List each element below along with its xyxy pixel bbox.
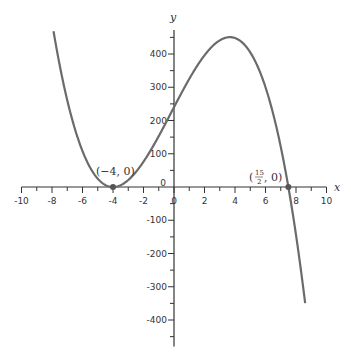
y-tick-label: -300 (147, 282, 168, 292)
x-tick-label: 2 (202, 196, 208, 206)
x-tick-label: 0 (171, 196, 177, 206)
x-tick-label: 10 (321, 196, 333, 206)
x-tick-label: 4 (232, 196, 238, 206)
y-tick-label: 400 (150, 49, 167, 59)
y-tick-label: 100 (150, 149, 167, 159)
function-plot: -10-8-6-4-22468100-400-300-200-100100200… (0, 0, 351, 362)
x-tick-label: 6 (263, 196, 269, 206)
x-axis-label: x (334, 181, 341, 194)
y-tick-label: -400 (147, 315, 168, 325)
annotation-right-root: ( 15 2 , 0) (249, 169, 282, 186)
svg-text:15: 15 (255, 169, 264, 177)
x-tick-label: -10 (14, 196, 29, 206)
svg-text:(: ( (249, 171, 253, 184)
x-tick-label: -4 (109, 196, 118, 206)
x-tick-label: 8 (293, 196, 299, 206)
intercept-marker (285, 184, 291, 190)
y-tick-label: 300 (150, 82, 167, 92)
x-tick-label: -8 (48, 196, 57, 206)
svg-text:2: 2 (257, 178, 261, 186)
y-tick-label: -100 (147, 215, 168, 225)
x-tick-label: -6 (78, 196, 87, 206)
svg-text:, 0): , 0) (264, 171, 282, 184)
function-curve (54, 31, 306, 303)
intercept-marker (110, 184, 116, 190)
y-axis-label: y (169, 11, 177, 24)
annotation-left-root: (−4, 0) (96, 165, 135, 178)
y-tick-label: -200 (147, 249, 168, 259)
x-tick-label: -2 (139, 196, 148, 206)
y-origin-label: 0 (160, 178, 166, 188)
